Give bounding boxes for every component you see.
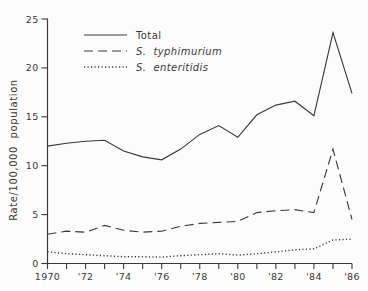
x-tick-label: '86 — [344, 271, 360, 282]
legend-sample-solid-line — [83, 30, 128, 40]
x-tick-label: '80 — [230, 271, 246, 282]
legend-label-s-enteritidis: S. enteritidis — [136, 62, 208, 73]
legend: Total S. typhimurium S. enteritidis — [83, 27, 222, 75]
y-tick-label: 20 — [26, 62, 39, 73]
legend-item-s-typhimurium: S. typhimurium — [83, 43, 222, 59]
y-tick-label: 25 — [26, 14, 39, 25]
y-axis-title: Rate/100,000 population — [8, 79, 19, 221]
legend-label-total: Total — [136, 30, 161, 41]
series-line-s-enteritidis — [48, 239, 353, 257]
x-tick-label: '76 — [154, 271, 170, 282]
chart-figure: 05101520251970'72'74'76'78'80'82'84'86 R… — [0, 0, 368, 291]
legend-sample-dashed-line — [83, 46, 128, 56]
y-tick-label: 10 — [26, 160, 39, 171]
legend-item-s-enteritidis: S. enteritidis — [83, 59, 222, 75]
x-tick-label: '82 — [268, 271, 284, 282]
x-tick-label: '78 — [192, 271, 208, 282]
y-tick-label: 15 — [26, 111, 39, 122]
x-tick-label: '84 — [306, 271, 322, 282]
x-tick-label: 1970 — [35, 271, 60, 282]
y-tick-label: 5 — [32, 209, 38, 220]
legend-item-total: Total — [83, 27, 222, 43]
legend-sample-dotted-line — [83, 62, 128, 72]
series-line-s-typhimurium — [48, 149, 353, 234]
x-tick-label: '74 — [116, 271, 132, 282]
x-tick-label: '72 — [78, 271, 94, 282]
y-tick-label: 0 — [32, 258, 38, 269]
legend-label-s-typhimurium: S. typhimurium — [136, 46, 222, 57]
